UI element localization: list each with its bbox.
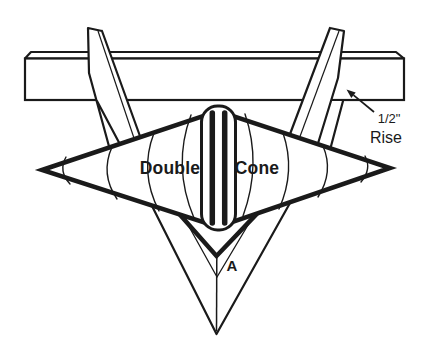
center-hub-outline [202, 106, 236, 230]
rise-value-label: 1/2" [378, 111, 401, 126]
label-double: Double [140, 158, 201, 178]
diagram-canvas: Double Cone A 1/2" Rise [0, 0, 428, 364]
label-a: A [227, 257, 238, 274]
label-cone: Cone [235, 158, 280, 178]
double-cone-diagram: Double Cone A 1/2" Rise [0, 0, 428, 364]
center-hub [202, 106, 236, 230]
beam-front-face [25, 59, 404, 101]
workbench-beam [25, 52, 404, 100]
rise-word-label: Rise [370, 129, 402, 146]
